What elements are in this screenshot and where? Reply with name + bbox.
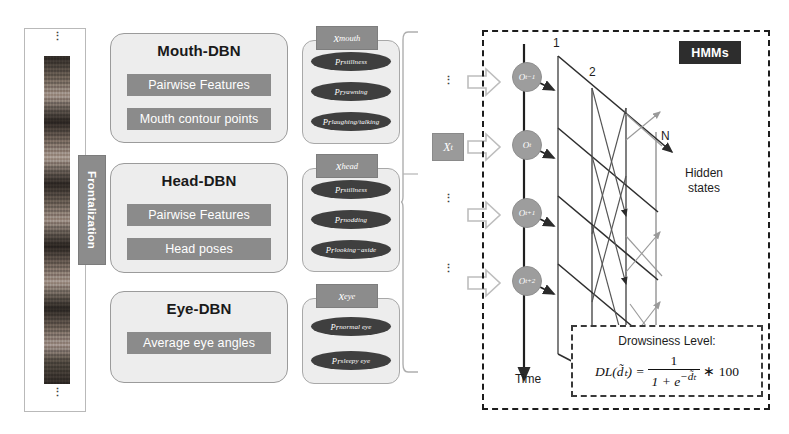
prob-ellipse-eye-0: Prnormal eye (311, 317, 391, 336)
drowsiness-formula: DL(d̃ₜ) = 1 1 + e−d̃ₜ ∗ 100 (573, 354, 761, 389)
observation-node-0[interactable]: Ot−1 (512, 62, 542, 92)
state-label-2: 2 (589, 65, 596, 79)
prob-ellipse-head-0: Prstillness (311, 180, 391, 199)
prob-ellipse-head-2: Prlooking−aside (311, 240, 391, 259)
feature-badge-head: xhead (316, 154, 378, 178)
figure-canvas: ⋮ ⋮ Frontalization Mouth-DBN Pairwise Fe… (0, 0, 789, 434)
dbn-title-eye: Eye-DBN (111, 300, 287, 317)
brace-ellipsis-0: ⋮ (438, 78, 458, 83)
prob-ellipse-head-1: Prnodding (311, 210, 391, 229)
formula-lhs: DL(d̃ₜ) = (595, 363, 644, 380)
prob-ellipse-eye-1: Prsleepy eye (311, 351, 391, 370)
dbn-head-bar-1: Head poses (127, 238, 271, 260)
prob-group-mouth: Prstillness Pryawning Prlaughing/talking (302, 40, 400, 144)
brace-ellipsis-2: ⋮ (438, 266, 458, 271)
formula-fraction: 1 1 + e−d̃ₜ (648, 354, 701, 389)
formula-multiplier: ∗ 100 (703, 363, 739, 380)
dbn-eye-bar-0: Average eye angles (127, 332, 271, 354)
dbn-title-head: Head-DBN (111, 172, 287, 189)
feature-badge-eye: xeye (316, 284, 378, 308)
observation-node-3[interactable]: Ot+2 (512, 266, 542, 296)
hidden-states-caption: Hidden states (667, 166, 741, 196)
state-label-n: N (661, 129, 670, 143)
drowsiness-title: Drowsiness Level: (573, 334, 761, 348)
hidden-states-line2: states (667, 181, 741, 196)
prob-ellipse-mouth-0: Prstillness (311, 52, 391, 71)
frames-bottom-ellipsis: ⋮ (44, 390, 70, 395)
prob-ellipse-mouth-1: Pryawning (311, 82, 391, 101)
hidden-states-line1: Hidden (667, 166, 741, 181)
time-caption: Time (502, 372, 554, 387)
formula-denominator: 1 + e−d̃ₜ (648, 371, 701, 389)
drowsiness-level-box: Drowsiness Level: DL(d̃ₜ) = 1 1 + e−d̃ₜ … (571, 325, 763, 397)
face-frames-strip (44, 56, 70, 384)
dbn-module-head[interactable]: Head-DBN Pairwise Features Head poses (110, 163, 288, 273)
state-label-1: 1 (553, 36, 560, 50)
dbn-module-mouth[interactable]: Mouth-DBN Pairwise Features Mouth contou… (110, 33, 288, 143)
frontalization-tab: Frontalization (78, 155, 106, 265)
dbn-head-bar-0: Pairwise Features (127, 204, 271, 226)
formula-numerator: 1 (665, 354, 684, 368)
dbn-title-mouth: Mouth-DBN (111, 42, 287, 59)
dbn-module-eye[interactable]: Eye-DBN Average eye angles (110, 291, 288, 383)
frames-top-ellipsis: ⋮ (44, 34, 70, 39)
prob-group-eye: Prnormal eye Prsleepy eye (302, 298, 400, 384)
feature-badge-mouth: xmouth (316, 26, 378, 50)
observation-node-2[interactable]: Ot+1 (512, 198, 542, 228)
brace-ellipsis-1: ⋮ (438, 196, 458, 201)
face-thumbnails (44, 56, 70, 384)
prob-ellipse-mouth-2: Prlaughing/talking (311, 112, 391, 131)
prob-group-head: Prstillness Prnodding Prlooking−aside (302, 168, 400, 272)
fused-feature-xt: Xt (432, 133, 464, 161)
frontalization-label: Frontalization (86, 171, 98, 249)
dbn-mouth-bar-1: Mouth contour points (127, 108, 271, 130)
observation-node-1[interactable]: Ot (512, 130, 542, 160)
dbn-mouth-bar-0: Pairwise Features (127, 74, 271, 96)
